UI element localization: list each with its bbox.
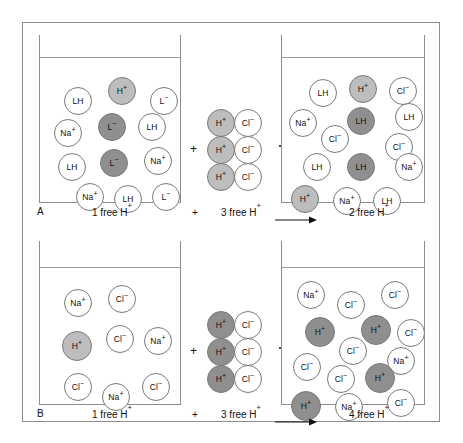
beaker-a-before-liquid-line — [40, 57, 180, 58]
molecule-a-before-na: Na+ — [144, 147, 172, 175]
molecule-acid-a-cation-h: H+ — [207, 109, 235, 137]
molecule-b-after-cl: Cl− — [337, 291, 365, 319]
molecule-label: Cl — [389, 291, 397, 300]
molecule-a-after-na: Na+ — [289, 109, 317, 137]
plus-sign-a: + — [190, 143, 197, 155]
molecule-label: Na — [150, 337, 161, 346]
molecule-b-before-na: Na+ — [102, 383, 130, 411]
caption-a-left-text: 1 free H — [92, 207, 128, 218]
molecule-a-before-na: Na+ — [54, 119, 82, 147]
molecule-label: Na — [60, 129, 71, 138]
molecule-label: LH — [311, 163, 322, 172]
molecule-label: Cl — [397, 87, 405, 96]
figure-border: LHH+L−Na+L−LHLHL−Na+Na+LHL− + H+Cl−H+Cl−… — [22, 22, 440, 422]
molecule-acid-a-cation-h: H+ — [207, 163, 235, 191]
panel-b-letter: B — [37, 408, 44, 419]
molecule-label: Cl — [347, 347, 355, 356]
molecule-acid-b-cation-h: H+ — [207, 365, 235, 393]
molecule-label: Na — [82, 193, 93, 202]
caption-arrow-b — [275, 413, 317, 423]
beaker-b-after-liquid-line — [282, 267, 424, 268]
molecule-b-before-cl: Cl− — [142, 373, 170, 401]
molecule-label: Na — [339, 197, 350, 206]
molecule-label: Cl — [242, 146, 250, 155]
molecule-a-after-h: H+ — [349, 75, 377, 103]
molecule-a-before-l: L− — [100, 149, 128, 177]
molecule-acid-a-cation-h: H+ — [207, 136, 235, 164]
molecule-b-before-cl: Cl− — [64, 373, 92, 401]
molecule-label: Na — [70, 299, 81, 308]
plus-sign-b: + — [190, 345, 197, 357]
molecule-label: Cl — [405, 329, 413, 338]
molecule-label: Na — [393, 357, 404, 366]
molecule-b-after-h: H+ — [305, 317, 335, 347]
molecule-a-after-lh: LH — [347, 153, 375, 181]
molecule-b-after-cl: Cl− — [397, 319, 425, 347]
beaker-b-after-contents: Na+Cl−Cl−H+H+Cl−Cl−Cl−Na+Cl−H+H+Na+Cl− — [287, 273, 420, 400]
molecule-a-after-lh: LH — [395, 103, 423, 131]
molecule-label: Cl — [242, 119, 250, 128]
molecule-label: Cl — [345, 301, 353, 310]
caption-b-middle: 3 free H+ — [209, 409, 273, 420]
molecule-label: LH — [355, 163, 366, 172]
molecule-label: LH — [355, 117, 366, 126]
molecule-label: Na — [303, 291, 314, 300]
molecule-a-before-lh: LH — [138, 113, 166, 141]
acid-added-a: H+Cl−H+Cl−H+Cl− — [207, 109, 279, 191]
molecule-b-before-cl: Cl− — [108, 285, 136, 313]
caption-a-middle: 3 free H+ — [209, 207, 273, 218]
molecule-a-after-lh: LH — [303, 153, 331, 181]
caption-b-right: 4 free H+ — [319, 409, 419, 420]
caption-a-right-sup: + — [385, 201, 389, 210]
caption-b-right-sup: + — [385, 403, 389, 412]
beaker-a-after-contents: LHH+Cl−Na+LHLHCl−Cl−LHLHNa+H+Na+LH — [287, 63, 420, 198]
caption-a-left: 1 free H+ — [65, 207, 159, 218]
molecule-a-after-lh: LH — [347, 107, 375, 135]
molecule-b-after-cl: Cl− — [327, 365, 355, 393]
molecule-a-after-lh: LH — [309, 79, 337, 107]
molecule-acid-a-anion-cl: Cl− — [234, 163, 262, 191]
molecule-a-before-l: L− — [150, 87, 178, 115]
molecule-label: Cl — [335, 375, 343, 384]
molecule-acid-b-cation-h: H+ — [207, 338, 235, 366]
beaker-b-before-contents: Na+Cl−H+Cl−Na+Cl−Na+Cl− — [46, 273, 176, 400]
molecule-b-after-h: H+ — [361, 315, 391, 345]
molecule-label: Cl — [329, 135, 337, 144]
molecule-a-before-lh: LH — [58, 153, 86, 181]
beaker-a-before-contents: LHH+L−Na+L−LHLHL−Na+Na+LHL− — [46, 65, 176, 198]
panel-a-letter: A — [37, 206, 44, 217]
caption-a-left-sup: + — [128, 201, 132, 210]
molecule-b-before-na: Na+ — [144, 327, 172, 355]
molecule-b-before-na: Na+ — [64, 289, 92, 317]
molecule-b-after-cl: Cl− — [293, 353, 321, 381]
figure-root: LHH+L−Na+L−LHLHL−Na+Na+LHL− + H+Cl−H+Cl−… — [0, 0, 463, 443]
molecule-label: LH — [403, 113, 414, 122]
molecule-a-after-cl: Cl− — [389, 77, 417, 105]
caption-a-plus: + — [189, 207, 201, 218]
molecule-a-before-lh: LH — [64, 87, 92, 115]
molecule-a-after-cl: Cl− — [321, 125, 349, 153]
molecule-acid-b-anion-cl: Cl− — [234, 311, 262, 339]
caption-b-left: 1 free H+ — [65, 409, 159, 420]
molecule-label: Cl — [242, 321, 250, 330]
molecule-b-before-cl: Cl− — [106, 325, 134, 353]
molecule-label: Cl — [242, 375, 250, 384]
acid-added-b: H+Cl−H+Cl−H+Cl− — [207, 311, 279, 393]
molecule-a-after-na: Na+ — [395, 153, 423, 181]
caption-b-left-sup: + — [128, 403, 132, 412]
beaker-a-after-liquid-line — [282, 57, 424, 58]
beaker-a-after: LHH+Cl−Na+LHLHCl−Cl−LHLHNa+H+Na+LH — [281, 35, 425, 203]
molecule-label: LH — [72, 97, 83, 106]
caption-a-middle-text: 3 free H — [221, 207, 257, 218]
molecule-label: Na — [401, 163, 412, 172]
molecule-label: Na — [295, 119, 306, 128]
caption-a-middle-sup: + — [257, 201, 261, 210]
caption-b-middle-sup: + — [257, 403, 261, 412]
molecule-b-after-h: H+ — [365, 363, 395, 393]
molecule-label: Cl — [150, 383, 158, 392]
molecule-label: Cl — [301, 363, 309, 372]
caption-b-middle-text: 3 free H — [221, 409, 257, 420]
molecule-label: LH — [146, 123, 157, 132]
caption-arrow-a — [275, 211, 317, 221]
molecule-label: Cl — [242, 348, 250, 357]
